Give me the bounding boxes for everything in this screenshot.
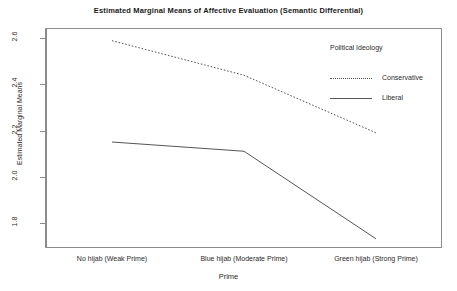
series-line-conservative — [112, 41, 376, 133]
chart-figure: Estimated Marginal Means of Affective Ev… — [0, 0, 457, 291]
legend-title: Political Ideology — [330, 44, 383, 51]
legend-label-liberal: Liberal — [382, 94, 403, 101]
legend-key-solid-icon — [330, 98, 372, 101]
legend-key-dotted-icon — [330, 78, 372, 81]
series-line-liberal — [112, 142, 376, 239]
series-lines — [0, 0, 457, 291]
legend-label-conservative: Conservative — [382, 74, 423, 81]
